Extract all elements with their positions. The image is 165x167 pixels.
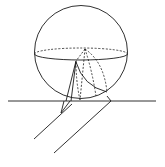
section-ellipse-dashed [85,49,107,92]
cone-edge-dashed-2 [85,49,96,96]
cylinder-edge-right [54,101,111,153]
axis-dashed-top [76,49,85,61]
cylinder-edge-left [34,104,72,139]
section-arc-solid [76,62,107,92]
sphere-diagram [0,0,165,167]
geometry-figure [0,0,165,167]
cylinder-cap-right [107,96,111,101]
equator-back-dashed [35,48,128,54]
cone-edge-solid-inner [71,61,76,101]
sphere-outline [35,6,128,99]
cone-edge-solid-left [66,61,76,101]
cone-edge-dashed-1 [80,49,85,100]
equator-front-solid [35,54,128,60]
